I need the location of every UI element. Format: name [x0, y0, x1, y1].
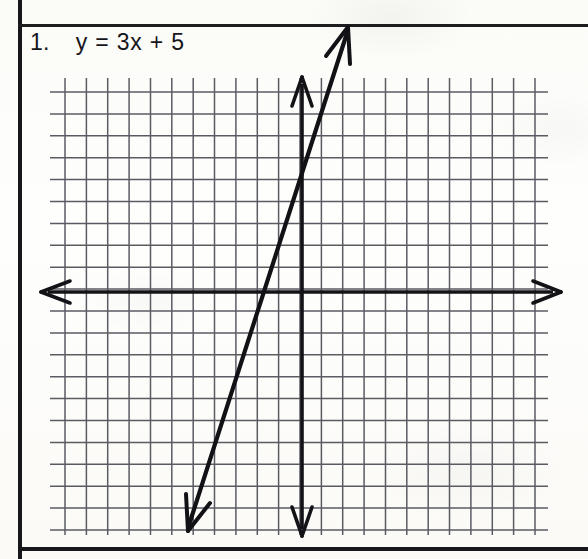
worksheet-page: 1. y = 3x + 5	[0, 0, 588, 559]
coordinate-graph	[0, 0, 588, 559]
graph-svg	[0, 0, 588, 559]
plotted-line	[186, 27, 350, 531]
grid-horizontal-lines	[50, 92, 548, 530]
grid-vertical-lines	[65, 78, 535, 535]
plotted-line-segment	[189, 33, 347, 525]
graph-grid	[50, 78, 548, 535]
